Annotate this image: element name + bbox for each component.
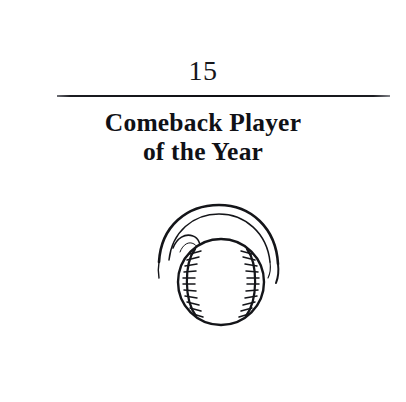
motion-arc-inner-tail <box>268 262 270 278</box>
title-divider-line <box>57 95 390 97</box>
motion-arc-outer-tail <box>276 264 278 283</box>
chapter-number: 15 <box>0 56 406 86</box>
chapter-title-page: 15 Comeback Player of the Year <box>0 0 406 402</box>
ball-circle <box>178 239 264 325</box>
page-title-line-2: of the Year <box>0 137 406 166</box>
motion-arc-outer-tail-left <box>158 262 159 278</box>
page-title-line-1: Comeback Player <box>0 108 406 137</box>
page-title: Comeback Player of the Year <box>0 108 406 166</box>
title-divider <box>57 95 390 98</box>
baseball-icon <box>143 190 293 340</box>
baseball-illustration <box>143 190 293 340</box>
